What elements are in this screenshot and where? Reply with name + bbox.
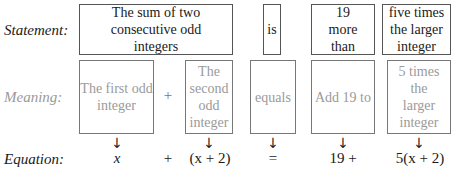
meaning-box-first-odd: The first odd integer [79,60,154,134]
equation-equals: = [263,149,283,167]
meaning-text: The second odd integer [186,63,232,131]
meaning-box-second-odd: The second odd integer [185,60,233,134]
down-arrow-icon: ↓ [333,136,353,150]
meaning-text: The first odd integer [80,80,153,114]
statement-text: is [267,21,276,38]
down-arrow-icon: ↓ [409,136,429,150]
statement-box-is: is [263,4,281,55]
meaning-label: Meaning: [4,88,62,106]
down-arrow-icon: ↓ [263,136,283,150]
statement-label: Statement: [4,21,68,39]
statement-box-sum: The sum of two consecutive odd integers [79,4,233,55]
meaning-box-add-19: Add 19 to [311,60,375,134]
statement-text: 19 more than [312,4,374,55]
statement-box-19-more-than: 19 more than [311,4,375,55]
statement-text: The sum of two consecutive odd integers [80,4,232,55]
equation-term-x: x [107,149,127,167]
meaning-text: equals [255,89,291,106]
meaning-text: 5 times the larger integer [388,63,450,131]
equation-term-x-plus-2: (x + 2) [180,149,240,167]
meaning-box-5-times: 5 times the larger integer [387,60,451,134]
statement-text: five times the larger integer [383,4,450,55]
equation-term-5x-plus-2: 5(x + 2) [388,149,452,167]
meaning-text: Add 19 to [315,89,371,106]
statement-box-five-times: five times the larger integer [382,4,451,55]
meaning-plus: + [161,87,175,104]
equation-label: Equation: [4,150,64,168]
down-arrow-icon: ↓ [199,136,219,150]
equation-term-19-plus: 19 + [318,149,368,167]
down-arrow-icon: ↓ [107,136,127,150]
meaning-box-equals: equals [250,60,296,134]
equation-plus: + [160,149,176,167]
